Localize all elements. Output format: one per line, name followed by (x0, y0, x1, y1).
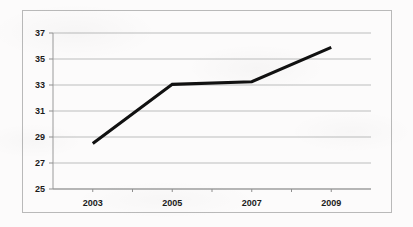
x-axis-tick-labels: 2003200520072009 (83, 198, 342, 208)
y-tick-label: 25 (35, 184, 45, 194)
line-chart-figure: 25272931333537 2003200520072009 (22, 10, 392, 213)
x-tick-label: 2003 (83, 198, 103, 208)
y-axis-tick-marks (49, 33, 53, 189)
horizontal-gridlines (53, 33, 371, 189)
x-tick-label: 2009 (321, 198, 341, 208)
y-tick-label: 35 (35, 54, 45, 64)
x-tick-label: 2005 (162, 198, 182, 208)
x-tick-label: 2007 (242, 198, 262, 208)
y-tick-label: 27 (35, 158, 45, 168)
y-axis-tick-labels: 25272931333537 (35, 28, 45, 194)
y-tick-label: 37 (35, 28, 45, 38)
y-tick-label: 31 (35, 106, 45, 116)
y-tick-label: 33 (35, 80, 45, 90)
series-line-path (93, 47, 332, 143)
data-series-group (93, 47, 332, 143)
y-tick-label: 29 (35, 132, 45, 142)
chart-canvas: 25272931333537 2003200520072009 (23, 11, 391, 212)
